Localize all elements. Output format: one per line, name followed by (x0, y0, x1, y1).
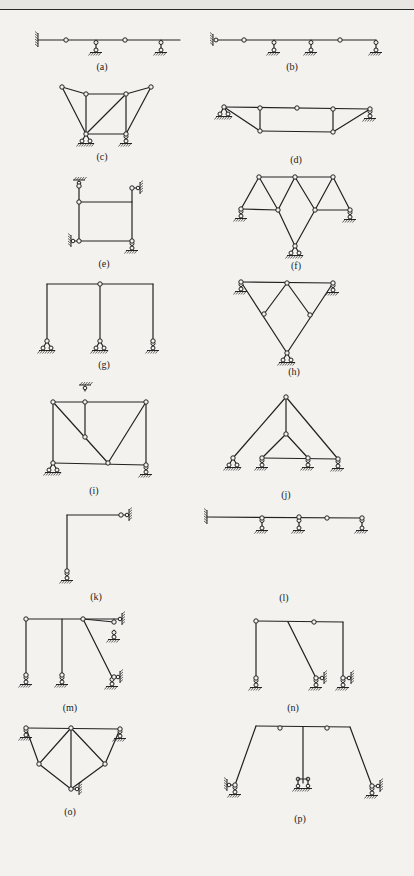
hinge-node-icon (325, 726, 329, 730)
hinge-node-icon (297, 515, 301, 519)
figure-label-c: (c) (96, 151, 107, 163)
hinge-node-icon (124, 92, 128, 96)
member (333, 109, 370, 132)
hinge-node-icon (254, 676, 258, 680)
hinge-node-icon (24, 673, 28, 677)
diagram-b: (b) (210, 33, 382, 74)
hinge-node-icon (118, 727, 122, 731)
member (278, 210, 295, 246)
hinge-node-icon (144, 463, 148, 467)
hinge-node-icon (106, 461, 110, 465)
figure-label-i: (i) (89, 485, 98, 497)
diagram-d: (d) (215, 105, 377, 166)
support-pin-roller-icon (154, 40, 168, 56)
hinge-node-icon (306, 456, 310, 460)
hinge-node-icon (239, 280, 243, 284)
support-fixed-left-pin-icon (210, 33, 218, 47)
hinge-node-icon (84, 92, 88, 96)
member (83, 619, 112, 677)
member (259, 177, 278, 210)
hinge-node-icon (37, 762, 41, 766)
hinge-node-icon (84, 132, 88, 136)
hinge-node-icon (231, 456, 235, 460)
figure-label-n: (n) (287, 702, 299, 714)
member (264, 283, 287, 314)
hinge-node-icon (60, 85, 64, 89)
figure-label-o: (o) (64, 806, 76, 818)
hinge-node-icon (262, 312, 266, 316)
member (333, 177, 350, 210)
figure-label-e: (e) (98, 258, 109, 270)
support-pin-roller-icon (369, 40, 383, 56)
diagram-n: (n) (249, 619, 355, 714)
hinge-node-icon (341, 676, 345, 680)
hinge-node-icon (284, 432, 288, 436)
hinge-node-icon (295, 106, 299, 110)
member (105, 729, 120, 764)
hinge-node-icon (258, 106, 262, 110)
hinge-node-icon (293, 244, 297, 248)
hinge-node-icon (112, 620, 116, 624)
diagram-i: (i) (44, 382, 153, 497)
figure-label-j: (j) (281, 489, 290, 501)
member (256, 621, 343, 622)
hinge-node-icon (130, 239, 134, 243)
member (295, 177, 315, 210)
hinge-node-icon (69, 787, 73, 791)
hinge-node-icon (65, 569, 69, 573)
hinge-node-icon (233, 783, 237, 787)
member (288, 622, 316, 678)
hinge-node-icon (308, 313, 312, 317)
diagram-g: (g) (38, 282, 160, 371)
hinge-node-icon (112, 675, 116, 679)
support-pin-roller-icon (89, 40, 103, 56)
diagram-k: (k) (60, 508, 133, 604)
member (39, 728, 71, 764)
hinge-node-icon (260, 456, 264, 460)
hinge-node-icon (81, 617, 85, 621)
member (62, 87, 86, 134)
member (71, 728, 105, 764)
diagram-l: (l) (204, 509, 368, 605)
hinge-node-icon (77, 239, 81, 243)
hinge-node-icon (124, 132, 128, 136)
hinge-node-icon (284, 395, 288, 399)
member (224, 107, 260, 131)
member (26, 728, 39, 764)
hinge-node-icon (285, 281, 289, 285)
hinge-node-icon (24, 726, 28, 730)
figure-label-k: (k) (90, 591, 102, 603)
hinge-node-icon (144, 400, 148, 404)
member (260, 131, 333, 132)
diagram-h: (h) (234, 280, 340, 378)
diagram-a: (a) (35, 32, 180, 74)
hinge-node-icon (331, 130, 335, 134)
support-pin-roller-icon (267, 40, 281, 56)
hinge-node-icon (130, 186, 134, 190)
member (207, 517, 362, 518)
hinge-node-icon (331, 281, 335, 285)
support-pin-roller-icon (304, 40, 318, 56)
support-fixed-left-icon (35, 32, 38, 48)
hinge-node-icon (24, 617, 28, 621)
hinge-node-icon (98, 339, 102, 343)
hinge-node-icon (222, 105, 226, 109)
diagram-m: (m) (19, 612, 126, 715)
member (39, 764, 71, 789)
member (233, 397, 286, 458)
hinge-node-icon (77, 200, 81, 204)
figure-label-m: (m) (63, 702, 77, 714)
diagram-p: (p) (224, 726, 383, 825)
diagram-c: (c) (60, 85, 153, 163)
member (262, 458, 338, 459)
support-hinge-top-icon (79, 382, 93, 391)
member (262, 434, 286, 458)
support-fixed-left-icon (204, 509, 207, 525)
member (86, 94, 126, 134)
hinge-node-icon (51, 400, 55, 404)
support-pin-icon (105, 677, 119, 690)
member (235, 726, 256, 785)
member (278, 177, 295, 210)
member (53, 463, 146, 465)
figure-label-d: (d) (290, 154, 302, 166)
